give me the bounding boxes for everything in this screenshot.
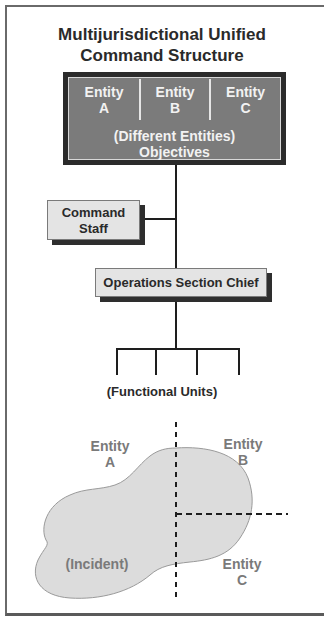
map-entity-c-letter: C <box>212 572 272 588</box>
map-entity-b-letter: B <box>213 452 273 468</box>
map-entity-a: Entity A <box>80 438 140 470</box>
map-entity-a-label: Entity <box>80 438 140 454</box>
map-entity-b: Entity B <box>213 436 273 468</box>
map-entity-c: Entity C <box>212 556 272 588</box>
map-entity-b-label: Entity <box>213 436 273 452</box>
incident-label: (Incident) <box>52 556 142 572</box>
incident-map <box>0 0 324 621</box>
map-entity-c-label: Entity <box>212 556 272 572</box>
map-entity-a-letter: A <box>80 454 140 470</box>
